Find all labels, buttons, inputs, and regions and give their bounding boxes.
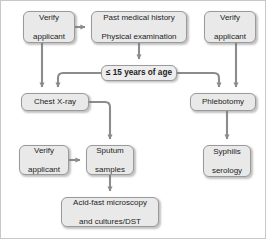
node-syphilis-serology[interactable]: Syphilis serology [203, 145, 251, 177]
node-label-line1: Verify [23, 146, 65, 156]
node-label-line2: applicant [23, 165, 65, 175]
node-label-line2: applicant [27, 32, 71, 42]
node-label-line1: Verify [208, 13, 252, 23]
connector-chest-xray-to-sputum [89, 102, 110, 139]
node-label-line2: serology [207, 166, 247, 176]
node-verify-applicant-top-left[interactable]: Verify applicant [23, 11, 75, 43]
node-label-line2: Physical examination [95, 32, 183, 42]
node-label-line2: samples [90, 165, 130, 175]
node-label-line1: Past medical history [95, 13, 183, 23]
node-label-line1: Sputum [90, 146, 130, 156]
node-label-line1: Chest X-ray [25, 97, 85, 107]
connector-age-gate-to-phlebotomy [177, 73, 219, 87]
node-verify-applicant-sputum[interactable]: Verify applicant [19, 145, 69, 175]
node-past-medical-history[interactable]: Past medical history Physical examinatio… [91, 11, 187, 43]
node-acid-fast-microscopy[interactable]: Acid-fast microscopy and cultures/DST [61, 197, 159, 227]
flowchart-diagram: Verify applicant Past medical history Ph… [0, 0, 266, 239]
node-age-gate[interactable]: ≤ 15 years of age [101, 65, 177, 81]
node-verify-applicant-top-right[interactable]: Verify applicant [204, 11, 256, 43]
connector-age-gate-to-chest-xray [58, 73, 101, 87]
node-label-line2: and cultures/DST [65, 217, 155, 227]
node-label-line1: Verify [27, 13, 71, 23]
node-label-line1: Syphilis [207, 147, 247, 157]
node-phlebotomy[interactable]: Phlebotomy [190, 93, 256, 111]
node-chest-xray[interactable]: Chest X-ray [21, 93, 89, 111]
node-sputum-samples[interactable]: Sputum samples [86, 145, 134, 175]
node-label-line1: Phlebotomy [194, 97, 252, 107]
node-label-line1: Acid-fast microscopy [65, 198, 155, 208]
node-label-line1: ≤ 15 years of age [105, 68, 173, 78]
node-label-line2: applicant [208, 32, 252, 42]
